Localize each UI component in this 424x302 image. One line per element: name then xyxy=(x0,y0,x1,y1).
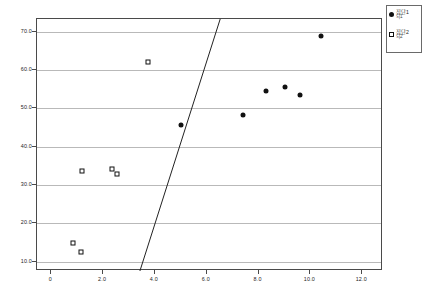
x-tick-label: 4.0 xyxy=(139,276,169,282)
plot-area xyxy=(36,18,382,270)
data-point-group-2 xyxy=(115,172,120,177)
y-tick-label: 30.0 xyxy=(2,181,32,187)
x-tick xyxy=(206,270,207,274)
data-point-group-1 xyxy=(318,33,323,38)
data-point-group-1 xyxy=(241,112,246,117)
x-tick-label: 10.0 xyxy=(294,276,324,282)
x-tick xyxy=(154,270,155,274)
x-tick xyxy=(102,270,103,274)
data-point-group-1 xyxy=(178,122,183,127)
x-tick-label: 8.0 xyxy=(243,276,273,282)
y-tick-label: 20.0 xyxy=(2,219,32,225)
x-tick xyxy=(258,270,259,274)
x-tick xyxy=(361,270,362,274)
x-tick-label: 0 xyxy=(35,276,65,282)
legend-sublabel-group-1: 뇌1 xyxy=(396,15,409,20)
x-tick-label: 6.0 xyxy=(191,276,221,282)
x-tick-label: 2.0 xyxy=(87,276,117,282)
y-tick-label: 50.0 xyxy=(2,104,32,110)
legend-entry-group-2: 집단2 뇌2 xyxy=(389,30,409,40)
data-point-group-2 xyxy=(146,60,151,65)
y-tick-label: 40.0 xyxy=(2,143,32,149)
y-tick-label: 60.0 xyxy=(2,66,32,72)
scatter-chart: 10.020.030.040.050.060.070.0 02.04.06.08… xyxy=(0,0,424,302)
y-tick-label: 10.0 xyxy=(2,258,32,264)
legend-sublabel-group-2: 뇌2 xyxy=(396,35,409,40)
data-point-group-1 xyxy=(264,89,269,94)
legend-entry-group-1: 집단1 뇌1 xyxy=(389,10,409,20)
open-square-icon xyxy=(389,32,394,37)
data-point-group-1 xyxy=(298,92,303,97)
filled-circle-icon xyxy=(389,12,394,17)
data-point-group-1 xyxy=(282,85,287,90)
data-point-group-2 xyxy=(71,240,76,245)
legend: 집단1 뇌1 집단2 뇌2 xyxy=(386,5,422,53)
y-tick-label: 70.0 xyxy=(2,28,32,34)
x-tick xyxy=(50,270,51,274)
discriminant-line xyxy=(37,19,383,271)
x-tick-label: 12.0 xyxy=(346,276,376,282)
data-point-group-2 xyxy=(80,168,85,173)
data-point-group-2 xyxy=(110,166,115,171)
data-point-group-2 xyxy=(79,250,84,255)
x-tick xyxy=(309,270,310,274)
